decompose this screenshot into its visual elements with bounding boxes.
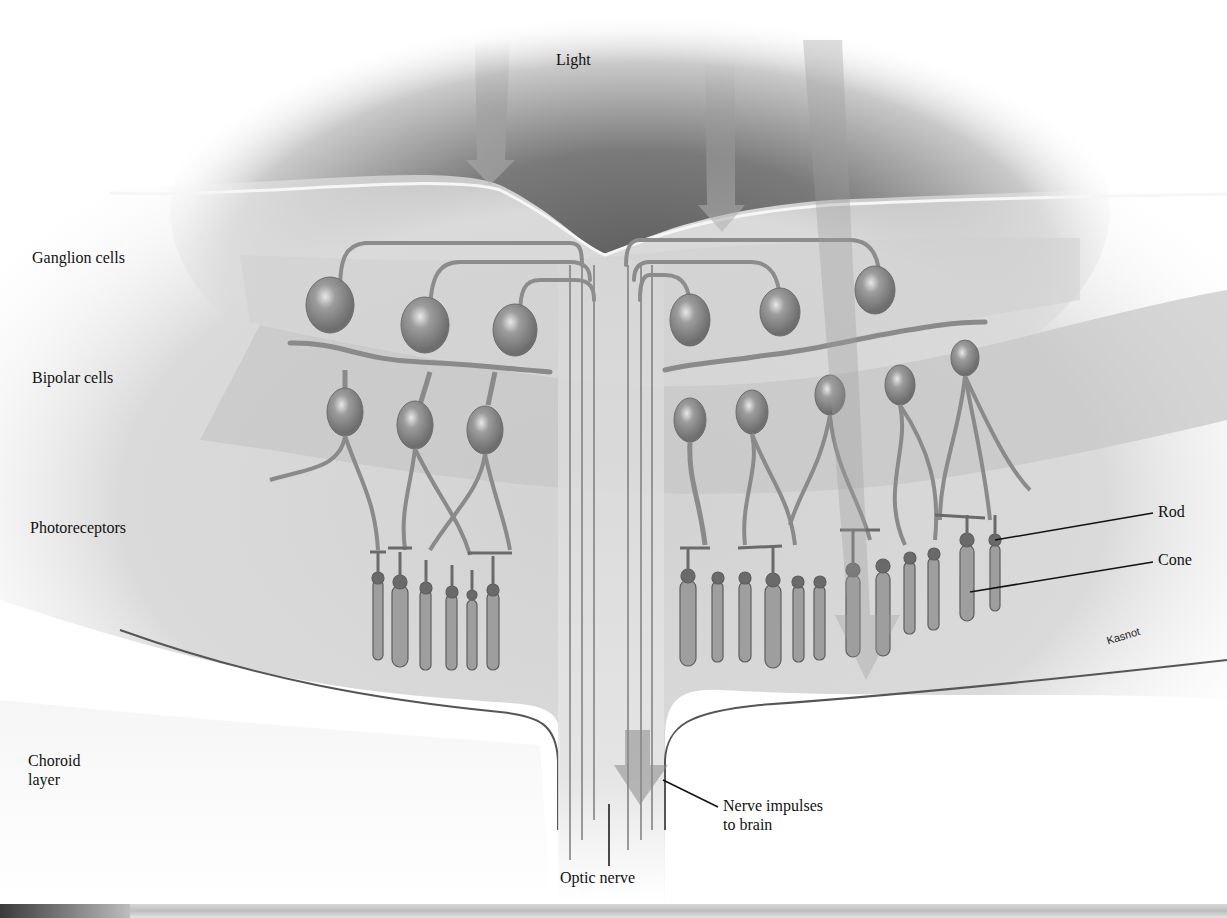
nerve-impulses-label-line1: Nerve impulses <box>723 796 823 815</box>
nerve-impulses-label-line2: to brain <box>723 815 772 834</box>
choroid-label-line2: layer <box>28 770 60 789</box>
choroid-layer-left <box>0 700 550 900</box>
photoreceptors-label: Photoreceptors <box>30 518 126 537</box>
optic-nerve-label: Optic nerve <box>560 868 635 887</box>
nerve-callout-line <box>663 780 718 807</box>
page-bottom-edge-shadow <box>0 904 130 918</box>
bipolar-cells-label: Bipolar cells <box>32 368 113 387</box>
ganglion-cells-label: Ganglion cells <box>32 248 125 267</box>
retina-diagram: Light Ganglion cells Bipolar cells Photo… <box>0 0 1227 918</box>
cone-label: Cone <box>1158 550 1192 569</box>
rod-label: Rod <box>1158 502 1185 521</box>
light-label: Light <box>556 50 591 69</box>
choroid-label-line1: Choroid <box>28 751 80 770</box>
page-bottom-edge <box>0 904 1227 918</box>
optic-nerve-column <box>558 260 664 900</box>
retina-illustration <box>0 0 1227 918</box>
